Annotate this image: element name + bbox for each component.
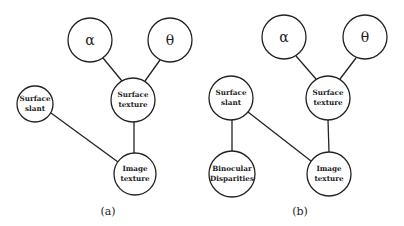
node-image-texture: Image texture xyxy=(114,153,156,195)
node-label-line2: slant xyxy=(25,104,46,113)
node-label-line2: texture xyxy=(314,174,344,183)
edge-alpha-surface-texture xyxy=(103,58,122,81)
node-label-line1: Surface xyxy=(313,88,344,97)
theta-symbol: θ xyxy=(361,29,369,45)
node-theta: θ xyxy=(148,18,192,62)
edge-surface-slant-image-texture xyxy=(51,113,118,162)
node-surface-texture: Surface texture xyxy=(306,76,350,120)
node-label-line1: Image xyxy=(122,164,148,173)
node-label-line2: texture xyxy=(118,100,148,109)
graphical-model-figure: α θ Surface slant Surface texture Image … xyxy=(0,0,404,226)
edge-alpha-surface-texture xyxy=(296,56,316,79)
node-alpha: α xyxy=(68,18,112,62)
node-image-texture: Image texture xyxy=(307,152,351,196)
alpha-symbol: α xyxy=(85,32,95,48)
edge-surface-texture-image-texture xyxy=(328,120,329,152)
node-label-line1: Image xyxy=(316,164,342,173)
node-label-line2: texture xyxy=(120,174,150,183)
node-label-line1: Surface xyxy=(118,90,149,99)
node-theta: θ xyxy=(343,15,387,59)
node-binocular-disparities: Binocular Disparities xyxy=(209,151,255,197)
node-label-line2: slant xyxy=(221,98,242,107)
node-surface-texture: Surface texture xyxy=(111,78,155,122)
node-surface-slant: Surface slant xyxy=(209,76,253,120)
node-label-line1: Binocular xyxy=(212,164,252,173)
alpha-symbol: α xyxy=(279,29,289,45)
theta-symbol: θ xyxy=(166,32,174,48)
caption-a: (a) xyxy=(100,205,115,218)
node-label-line2: Disparities xyxy=(210,174,254,183)
diagram-b: α θ Surface slant Surface texture Binocu… xyxy=(209,15,387,218)
edge-theta-surface-texture xyxy=(340,58,356,79)
edge-theta-surface-texture xyxy=(145,60,160,81)
node-label-line1: Surface xyxy=(216,88,247,97)
node-label-line2: texture xyxy=(313,98,343,107)
caption-b: (b) xyxy=(292,205,308,218)
node-label-line1: Surface xyxy=(20,94,51,103)
node-surface-slant: Surface slant xyxy=(17,86,53,122)
edge-surface-slant-image-texture xyxy=(248,112,311,161)
node-alpha: α xyxy=(262,15,306,59)
diagram-a: α θ Surface slant Surface texture Image … xyxy=(17,18,192,218)
